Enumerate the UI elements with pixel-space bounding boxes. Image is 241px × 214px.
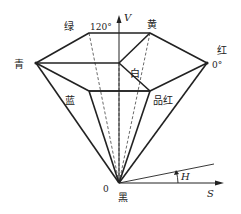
h-angle-label: H [180,171,190,182]
v-axis [117,15,122,183]
hsv-hexcone-diagram: V S H 0 120° 0° 绿 黄 青 红 白 蓝 品红 黑 [0,0,241,214]
white-label: 白 [130,67,140,79]
green-label: 绿 [64,20,74,32]
cyan-vertex-dot [34,61,37,64]
s-axis-label: S [207,188,214,199]
red-vertex-dot [205,61,208,64]
red-label: 红 [217,44,227,56]
top-hexagon [36,33,207,91]
cone-edges [36,63,207,183]
yellow-label: 黄 [147,18,157,30]
blue-label: 蓝 [65,95,75,106]
angle-0-label: 0° [212,60,222,70]
cyan-label: 青 [14,58,24,70]
angle-120-label: 120° [90,22,112,32]
h-reference-line [119,164,214,183]
s-axis [119,181,224,186]
magenta-label: 品红 [153,94,173,106]
origin-label: 0 [103,184,109,194]
black-label: 黑 [118,192,128,203]
v-axis-label: V [124,12,133,23]
